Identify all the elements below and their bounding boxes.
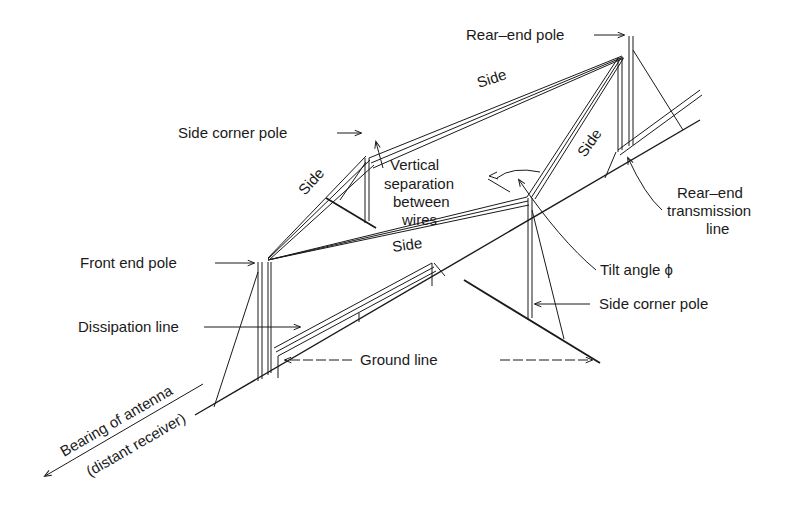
rear-end-pole bbox=[618, 36, 683, 152]
label-side-bottom: Side bbox=[391, 234, 423, 255]
rhombus-wires bbox=[268, 56, 624, 260]
label-vertical-separation-2: separation bbox=[384, 175, 454, 192]
label-side-top: Side bbox=[475, 65, 509, 90]
rear-end-transmission-line bbox=[605, 90, 702, 178]
front-end-pole bbox=[214, 262, 271, 407]
rhombic-antenna-diagram: Rear–end pole Side Side corner pole Vert… bbox=[0, 0, 802, 512]
label-dissipation-line: Dissipation line bbox=[78, 318, 179, 335]
label-side-left: Side bbox=[295, 164, 328, 198]
label-rear-end-tl-1: Rear–end bbox=[677, 184, 743, 201]
label-side-corner-pole-bottom: Side corner pole bbox=[599, 295, 708, 312]
bearing-arrow bbox=[45, 384, 203, 476]
label-front-end-pole: Front end pole bbox=[80, 254, 177, 271]
side-corner-pole-bottom bbox=[464, 198, 600, 363]
label-vertical-separation-1: Vertical bbox=[390, 156, 439, 173]
label-rear-end-tl-2: transmission bbox=[667, 202, 751, 219]
label-ground-line: Ground line bbox=[360, 351, 438, 368]
label-rear-end-tl-3: line bbox=[706, 220, 729, 237]
label-vertical-separation-3: between bbox=[393, 193, 450, 210]
label-rear-end-pole: Rear–end pole bbox=[466, 26, 564, 43]
side-corner-pole-top bbox=[326, 158, 376, 228]
label-tilt-angle: Tilt angle ϕ bbox=[600, 261, 673, 278]
label-side-corner-pole-top: Side corner pole bbox=[178, 124, 287, 141]
label-vertical-separation-4: wires bbox=[401, 211, 437, 228]
